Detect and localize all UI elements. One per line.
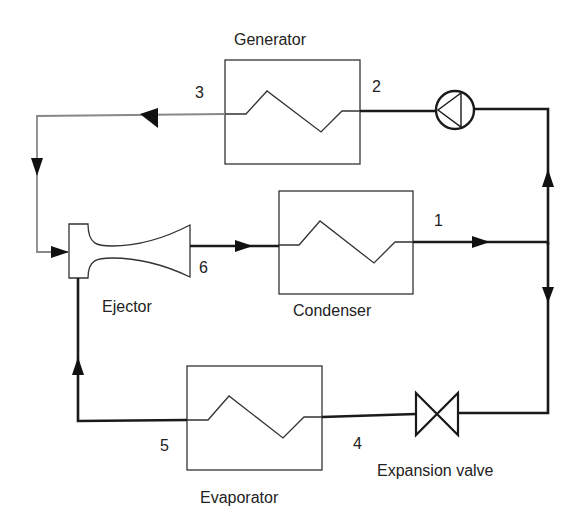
generator-coil-icon: [225, 91, 360, 132]
expansion-valve-icon: [416, 393, 458, 435]
evaporator-box: [187, 366, 322, 470]
expansion-valve: Expansion valve: [377, 393, 494, 479]
state-point-4: 4: [353, 435, 362, 452]
arrow-right-icon: [472, 236, 490, 248]
pump: [436, 91, 474, 129]
generator-box: [225, 60, 360, 164]
arrow-right-icon: [235, 240, 253, 252]
evaporator: Evaporator: [187, 366, 322, 506]
condenser-label: Condenser: [293, 302, 372, 319]
expansion-valve-label: Expansion valve: [377, 462, 494, 479]
generator: Generator: [225, 31, 360, 164]
condenser: Condenser: [279, 191, 413, 319]
pipe-generator-ejector: [37, 114, 225, 252]
arrow-up-icon: [72, 357, 84, 375]
evaporator-coil-icon: [187, 396, 322, 438]
state-point-3: 3: [195, 84, 204, 101]
ejector: Ejector: [69, 224, 190, 315]
generator-label: Generator: [234, 31, 307, 48]
state-point-1: 1: [434, 212, 443, 229]
pipe-junction-valve: [458, 242, 548, 413]
arrow-left-icon: [140, 108, 158, 128]
condenser-box: [279, 191, 413, 294]
state-point-5: 5: [160, 437, 169, 454]
evaporator-label: Evaporator: [200, 489, 279, 506]
ejector-nozzle-icon: [69, 224, 190, 278]
arrow-down-icon: [542, 287, 554, 303]
arrow-right-icon: [51, 246, 69, 258]
arrow-down-icon: [31, 158, 43, 176]
condenser-coil-icon: [279, 221, 413, 263]
arrow-up-icon: [542, 169, 554, 187]
ejector-cycle-diagram: Generator Condenser Evaporator Ejector E…: [0, 0, 577, 529]
state-point-2: 2: [372, 78, 381, 95]
pipe-valve-evaporator: [322, 414, 416, 417]
state-point-6: 6: [199, 259, 208, 276]
ejector-label: Ejector: [102, 298, 152, 315]
pipe-pump-junction: [474, 109, 548, 245]
